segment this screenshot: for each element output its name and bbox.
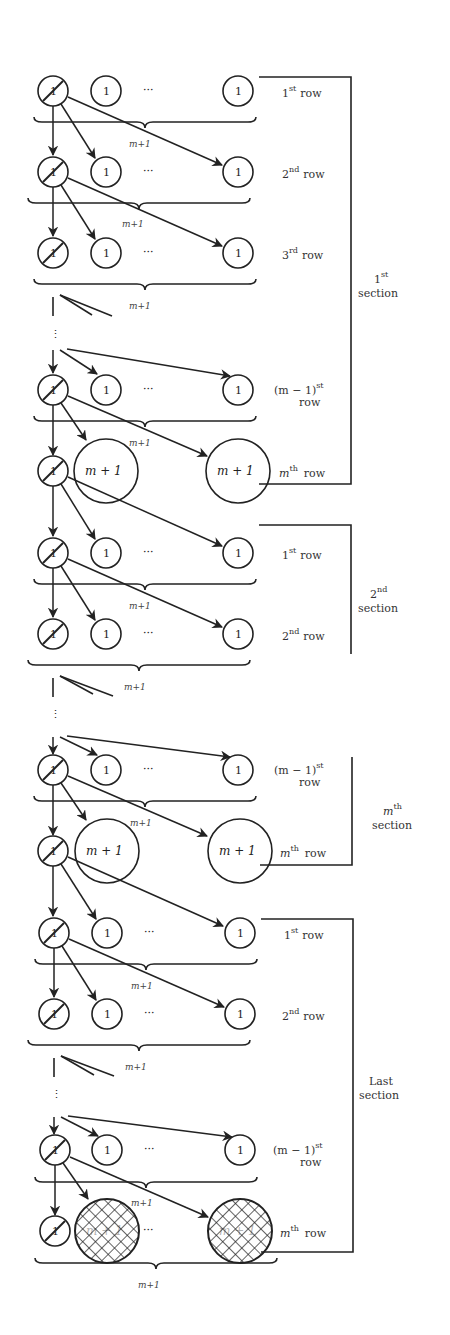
node-label: 1 [104,927,111,940]
node-label: 1 [104,1144,111,1157]
crossed-node-label: 1 [50,547,57,560]
row-3: 1 1 ··· 1 3rdrow [38,238,324,268]
crossed-node-label: 1 [50,764,57,777]
row-2: 1 1 ··· 1 2ndrow [38,157,325,187]
row-label: mthrow [280,844,327,860]
section-title: mth [383,802,402,818]
big-node-label: m + 1 [217,464,254,478]
node-label: 1 [235,628,242,641]
row-label: 2ndrow [282,165,325,181]
big-node-label: m + 1 [86,844,123,858]
crossed-node-label: 1 [50,166,57,179]
row-m-minus-1: 1 1 ··· 1 (m − 1)st row [38,755,324,789]
node-label: 1 [103,764,110,777]
section-word: section [372,819,412,832]
brace-label: m+1 [131,981,153,991]
node-label: 1 [235,247,242,260]
row-m-minus-1: 1 1 ··· 1 (m − 1)st row [38,375,324,409]
row-label: mthrow [280,1224,327,1240]
crossed-node-label: 1 [52,1225,59,1238]
vertical-ellipsis: ⋮ [51,1088,62,1101]
section-1: 1 1 ··· 1 1strow m+1 1 1 ··· 1 2ndrow m+… [28,76,398,503]
row-label: 2ndrow [282,627,325,643]
ellipsis: ··· [143,84,154,97]
node-label: 1 [103,384,110,397]
ellipsis: ··· [143,546,154,559]
section-last: 1 1 ··· 1 1strow m+1 1 1 ··· 1 2ndrow m+… [28,918,399,1290]
big-node-label: m + 1 [85,464,122,478]
ellipsis: ··· [144,926,155,939]
row-label: 1strow [282,546,322,562]
row-2: 1 1 ··· 1 2ndrow [38,619,325,649]
node-label: 1 [237,927,244,940]
brace-label: m+1 [130,818,152,828]
node-label: 1 [104,1008,111,1021]
node-label: 1 [103,85,110,98]
row-word: row [299,396,321,409]
row-2: 1 1 ··· 1 2ndrow [39,999,325,1029]
brace-label: m+1 [129,601,151,611]
row-word: row [300,1156,322,1169]
ellipsis: ··· [143,627,154,640]
ellipsis: ··· [144,1143,155,1156]
brace-label: m+1 [124,682,146,692]
node-label: 1 [235,85,242,98]
row-word: row [299,776,321,789]
section-title: 1st [374,270,389,286]
row-1: 1 1 ··· 1 1strow [38,76,322,106]
vertical-ellipsis: ⋮ [50,708,61,721]
ellipsis: ··· [143,246,154,259]
node-label: 1 [103,247,110,260]
row-label: 3rdrow [282,246,324,262]
section-m: 1 1 ··· 1 (m − 1)st row m+1 1 m + 1 m + … [34,755,412,883]
section-word: section [358,602,398,615]
section-2: 1 1 ··· 1 1strow m+1 1 1 ··· 1 2ndrow m+… [28,525,398,692]
section-bracket [261,919,353,1252]
row-m-minus-1: 1 1 ··· 1 (m − 1)st row [40,1135,323,1169]
row-label: mthrow [279,464,326,480]
row-1: 1 1 ··· 1 1strow [39,918,324,948]
ellipsis: ··· [143,1224,154,1237]
brace-label: m+1 [125,1062,147,1072]
crossed-node-label: 1 [51,1008,58,1021]
ellipsis: ··· [143,763,154,776]
node-label: 1 [103,628,110,641]
crossed-node-label: 1 [52,1144,59,1157]
section-word: section [359,1089,399,1102]
row-1: 1 1 ··· 1 1strow [38,538,322,568]
ellipsis: ··· [143,383,154,396]
ellipsis: ··· [144,1007,155,1020]
big-node-label: m + 1 [219,844,256,858]
node-label: 1 [103,166,110,179]
row-m: 1 m + 1 ··· m + 1 mthrow [40,1199,327,1263]
brace [34,117,256,128]
crossed-node-label: 1 [51,927,58,940]
node-label: 1 [235,384,242,397]
row-label: (m − 1)st [273,1141,323,1157]
row-m: 1 m + 1 m + 1 mthrow [38,439,326,503]
row-label: 1strow [282,84,322,100]
vertical-ellipsis: ⋮ [50,328,61,341]
section-word: section [358,287,398,300]
node-label: 1 [237,1008,244,1021]
row-m: 1 m + 1 m + 1 mthrow [38,819,327,883]
crossed-node-label: 1 [50,85,57,98]
section-title: 2nd [370,585,387,601]
node-label: 1 [103,547,110,560]
node-label: 1 [235,547,242,560]
node-label: 1 [235,764,242,777]
section-bracket [259,77,351,484]
crossed-node-label: 1 [50,845,57,858]
big-node-label: m + 1 [219,1224,256,1238]
section-title: Last [369,1075,394,1088]
row-label: (m − 1)st [274,761,324,777]
crossed-node-label: 1 [50,628,57,641]
brace-label: m+1 [122,219,144,229]
crossed-node-label: 1 [50,465,57,478]
crossed-node-label: 1 [50,247,57,260]
big-node-label: m + 1 [86,1224,123,1238]
brace-label: m+1 [129,438,151,448]
ellipsis: ··· [143,165,154,178]
row-label: 2ndrow [282,1007,325,1023]
brace-label: m+1 [138,1280,160,1290]
